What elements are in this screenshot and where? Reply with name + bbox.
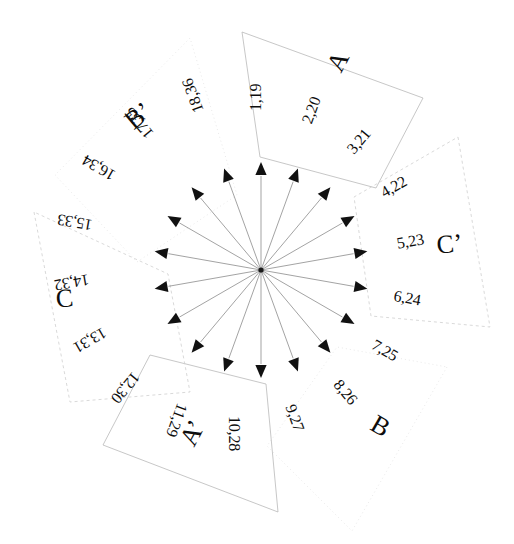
arrowhead-13 [167,313,181,324]
ray-line-12 [201,270,261,342]
arrowhead-2 [288,169,299,183]
ray-line-18 [229,182,261,270]
sector-outline-B [267,347,447,531]
arrowhead-1 [255,162,266,175]
diagram-canvas [0,0,514,544]
ray-line-9 [261,270,293,358]
ray-line-2 [261,182,293,270]
ray-line-8 [261,270,321,342]
center-hub [258,267,263,272]
arrowhead-12 [192,339,205,353]
arrowhead-8 [318,339,331,353]
arrowhead-14 [155,281,169,292]
arrowhead-16 [167,216,181,227]
sector-outline-B' [55,38,237,262]
arrowhead-6 [354,281,368,292]
arrowhead-9 [288,357,299,371]
arrowhead-4 [340,216,354,227]
arrowhead-5 [354,248,368,259]
arrowhead-18 [223,169,234,183]
radial-diagram: 1,192,203,214,225,236,247,258,269,2710,2… [0,0,514,544]
sector-outline-A' [103,355,278,512]
ray-line-3 [261,198,321,270]
arrowhead-10 [255,365,266,378]
sector-outline-C' [354,137,490,327]
arrowhead-3 [318,187,331,201]
arrowhead-7 [340,313,354,324]
arrowhead-17 [192,187,205,201]
ray-line-11 [229,270,261,358]
sector-outline-A [242,32,423,188]
arrowhead-11 [223,357,234,371]
ray-line-17 [201,198,261,270]
arrowhead-15 [155,248,169,259]
sector-outlines [34,32,490,531]
sector-outline-C [34,212,190,402]
